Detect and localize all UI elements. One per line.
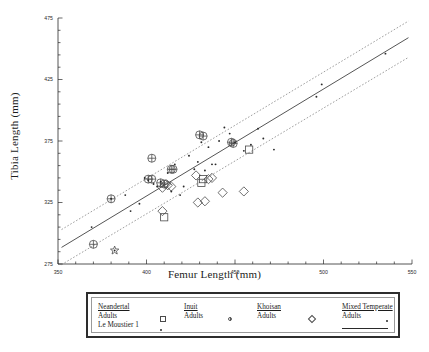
legend-column-inuit: InuitAdults bbox=[184, 303, 233, 321]
scatter-plot-figure: Femur Length (mm) Tibia Length (mm) 2753… bbox=[0, 0, 429, 352]
x-tick-label: 500 bbox=[311, 269, 337, 275]
legend-dot-icon bbox=[160, 329, 162, 331]
y-axis-title: Tibia Length (mm) bbox=[8, 76, 20, 196]
y-tick-label: 475 bbox=[31, 15, 53, 21]
legend-entry-label: Adults bbox=[184, 312, 228, 321]
series-khoisan-adults bbox=[158, 171, 249, 216]
legend-box: NeandertalAdultsLe Moustier 1InuitAdults… bbox=[86, 292, 400, 338]
legend-entry-label: Adults bbox=[257, 312, 309, 321]
legend-entry-label: Adults bbox=[342, 312, 386, 321]
y-tick-label: 325 bbox=[31, 199, 53, 205]
legend-line-icon bbox=[342, 328, 388, 329]
legend-entry[interactable]: Adults bbox=[342, 312, 393, 321]
series-neandertal-adults bbox=[161, 146, 253, 221]
series-neandertal-le-moustier-1 bbox=[114, 250, 116, 252]
y-tick-label: 425 bbox=[31, 76, 53, 82]
legend-entry[interactable]: Le Moustier 1 bbox=[98, 321, 166, 330]
legend-entry-marker bbox=[309, 312, 315, 322]
legend-entry-marker bbox=[160, 321, 162, 331]
legend-entry-marker bbox=[386, 312, 388, 322]
legend-entry-marker bbox=[228, 312, 233, 322]
legend-fit-line-sample bbox=[342, 324, 393, 333]
legend-entry[interactable]: Adults bbox=[98, 312, 166, 321]
x-tick-label: 550 bbox=[399, 269, 425, 275]
legend-entry[interactable]: Adults bbox=[257, 312, 315, 321]
legend-column-khoisan: KhoisanAdults bbox=[257, 303, 315, 321]
x-tick-label: 450 bbox=[222, 269, 248, 275]
series-inuit-adults bbox=[89, 131, 237, 248]
legend-column-neandertal: NeandertalAdultsLe Moustier 1 bbox=[98, 303, 166, 330]
data-points-group bbox=[89, 53, 386, 254]
x-tick-label: 400 bbox=[134, 269, 160, 275]
legend-dot-icon bbox=[386, 320, 388, 322]
legend-group-header: Inuit bbox=[184, 303, 233, 312]
legend-entry-label: Adults bbox=[98, 312, 160, 321]
y-tick-label: 275 bbox=[31, 261, 53, 267]
legend-circled-plus-icon bbox=[228, 317, 233, 322]
y-tick-label: 375 bbox=[31, 138, 53, 144]
x-tick-label: 350 bbox=[45, 269, 71, 275]
legend-group-header: Neandertal bbox=[98, 303, 166, 312]
legend-inner-border: NeandertalAdultsLe Moustier 1InuitAdults… bbox=[91, 297, 395, 333]
legend-group-header: Khoisan bbox=[257, 303, 315, 312]
legend-entry-label: Le Moustier 1 bbox=[98, 321, 160, 330]
legend-entry[interactable]: Adults bbox=[184, 312, 233, 321]
legend-column-mixed-temperate: Mixed TemperateAdults bbox=[342, 303, 393, 333]
legend-open-diamond-icon bbox=[308, 314, 316, 322]
